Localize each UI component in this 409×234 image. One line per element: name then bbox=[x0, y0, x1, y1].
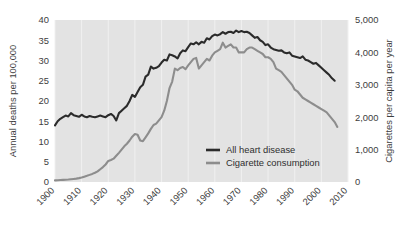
left-tick-label-10: 10 bbox=[39, 136, 49, 147]
left-tick-label-20: 20 bbox=[39, 95, 49, 106]
x-tick-label-1970: 1970 bbox=[220, 185, 243, 208]
legend-label-heart-disease: All heart disease bbox=[226, 144, 295, 155]
left-tick-label-40: 40 bbox=[39, 14, 49, 25]
left-tick-label-5: 5 bbox=[44, 156, 49, 167]
left-axis-ticks: 0510152025303540 bbox=[39, 14, 49, 187]
x-tick-label-1930: 1930 bbox=[114, 185, 137, 208]
left-tick-label-30: 30 bbox=[39, 55, 49, 66]
x-tick-label-1900: 1900 bbox=[34, 185, 57, 208]
legend-label-cigarette-consumption: Cigarette consumption bbox=[226, 157, 320, 168]
x-axis-ticks: 1900191019201930194019501960197019801990… bbox=[34, 185, 350, 208]
right-tick-label-2000: 2,000 bbox=[355, 112, 378, 123]
right-tick-label-1000: 1,000 bbox=[355, 144, 378, 155]
left-tick-label-35: 35 bbox=[39, 35, 49, 46]
left-tick-label-15: 15 bbox=[39, 116, 49, 127]
x-tick-label-2010: 2010 bbox=[327, 185, 350, 208]
left-tick-label-25: 25 bbox=[39, 75, 49, 86]
right-axis-ticks: 01,0002,0003,0004,0005,000 bbox=[355, 14, 378, 187]
x-tick-label-1910: 1910 bbox=[61, 185, 84, 208]
right-tick-label-3000: 3,000 bbox=[355, 79, 378, 90]
right-axis-title: Cigarettes per capita per year bbox=[383, 39, 394, 163]
right-tick-label-5000: 5,000 bbox=[355, 14, 378, 25]
line-chart: 0510152025303540 01,0002,0003,0004,0005,… bbox=[0, 0, 409, 234]
x-tick-label-1960: 1960 bbox=[194, 185, 217, 208]
x-tick-label-1980: 1980 bbox=[247, 185, 270, 208]
chart-container: 0510152025303540 01,0002,0003,0004,0005,… bbox=[0, 0, 409, 234]
x-tick-label-1950: 1950 bbox=[167, 185, 190, 208]
x-tick-label-1990: 1990 bbox=[274, 185, 297, 208]
x-tick-label-1940: 1940 bbox=[140, 185, 163, 208]
right-tick-label-0: 0 bbox=[355, 176, 360, 187]
left-axis-title: Annual deaths per 100,000 bbox=[7, 45, 18, 158]
right-tick-label-4000: 4,000 bbox=[355, 47, 378, 58]
x-tick-label-1920: 1920 bbox=[87, 185, 110, 208]
x-tick-label-2000: 2000 bbox=[300, 185, 323, 208]
